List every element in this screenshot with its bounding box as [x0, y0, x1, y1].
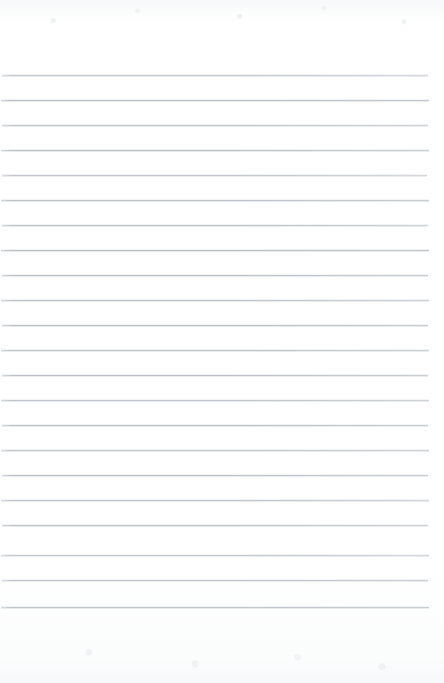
ruled-line: [1, 607, 429, 608]
ruled-line: [1, 350, 429, 351]
paper-page: [0, 0, 444, 683]
ruled-line: [2, 125, 428, 126]
ruled-line: [2, 225, 428, 226]
ruled-line: [1, 250, 429, 251]
ruled-line: [1, 555, 429, 556]
ruled-line: [2, 75, 428, 76]
ruled-line: [1, 200, 429, 201]
ruled-line: [2, 325, 428, 326]
ruled-line: [2, 580, 428, 581]
ruled-line: [1, 100, 429, 101]
ruled-line: [2, 525, 428, 526]
ruled-line: [2, 425, 428, 426]
ruled-line: [1, 300, 429, 301]
ruled-line: [2, 175, 427, 176]
ruled-line: [1, 450, 429, 451]
ruled-line: [1, 150, 429, 151]
ruled-line: [1, 400, 429, 401]
ruled-line: [2, 275, 428, 276]
ruled-line: [2, 475, 428, 476]
ruled-line: [2, 375, 428, 376]
ruled-line: [1, 500, 429, 501]
